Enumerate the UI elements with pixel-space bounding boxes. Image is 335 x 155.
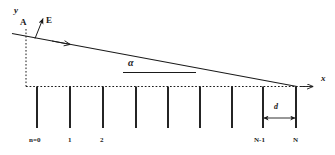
grating-tick-label-2: 2	[100, 137, 104, 144]
grating-tick-label-nminus1: N-1	[254, 137, 265, 144]
grating-tick-label-n0: n=0	[29, 137, 40, 144]
grating-diagram-figure: y x A E α d n=0 1 2 N-1 N	[0, 0, 335, 155]
grating-tick-label-n: N	[293, 137, 298, 144]
x-axis-label: x	[321, 74, 326, 83]
grating-tick-label-1: 1	[68, 137, 72, 144]
angle-alpha-label: α	[128, 58, 134, 68]
grating-lines-group	[37, 87, 296, 129]
e-field-label: E	[46, 16, 52, 25]
point-a-label: A	[20, 18, 27, 27]
e-field-vector	[35, 19, 43, 39]
spacing-d-label: d	[274, 103, 278, 111]
incident-ray	[12, 34, 297, 87]
y-axis-label: y	[14, 6, 18, 15]
